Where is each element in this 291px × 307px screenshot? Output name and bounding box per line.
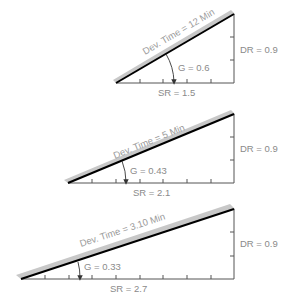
sr-label: SR = 1.5 xyxy=(158,87,195,98)
base-ticks xyxy=(92,179,211,183)
sr-label: SR = 2.1 xyxy=(133,187,170,198)
vertical-ticks xyxy=(230,137,234,160)
dr-label: DR = 0.9 xyxy=(240,238,278,249)
gradient-arc-icon xyxy=(78,262,80,278)
shade-band xyxy=(113,10,235,83)
gradient-arc-icon xyxy=(166,54,174,82)
dr-label: DR = 0.9 xyxy=(240,143,278,154)
triangle-panel-3: Dev. Time = 3.10 Min G = 0.33 SR = 2.7 D… xyxy=(16,204,278,294)
gradient-arc-icon xyxy=(122,161,126,182)
shade-band xyxy=(16,204,235,279)
hypotenuse xyxy=(116,14,234,83)
dev-time-label: Dev. Time = 5 Min xyxy=(112,122,187,161)
base-ticks xyxy=(45,275,211,279)
base-ticks xyxy=(140,79,211,83)
sr-label: SR = 2.7 xyxy=(110,283,147,294)
triangle-panel-1: Dev. Time = 12 Min G = 0.6 SR = 1.5 DR =… xyxy=(113,6,278,98)
hypotenuse xyxy=(21,209,234,279)
triangle-panel-2: Dev. Time = 5 Min G = 0.43 SR = 2.1 DR =… xyxy=(64,110,278,198)
gradient-label: G = 0.33 xyxy=(84,261,121,272)
gradient-label: G = 0.6 xyxy=(178,62,209,73)
vertical-ticks xyxy=(230,232,234,256)
slope-diagram: Dev. Time = 12 Min G = 0.6 SR = 1.5 DR =… xyxy=(0,0,291,307)
gradient-label: G = 0.43 xyxy=(130,165,167,176)
dr-label: DR = 0.9 xyxy=(240,44,278,55)
vertical-ticks xyxy=(230,37,234,60)
